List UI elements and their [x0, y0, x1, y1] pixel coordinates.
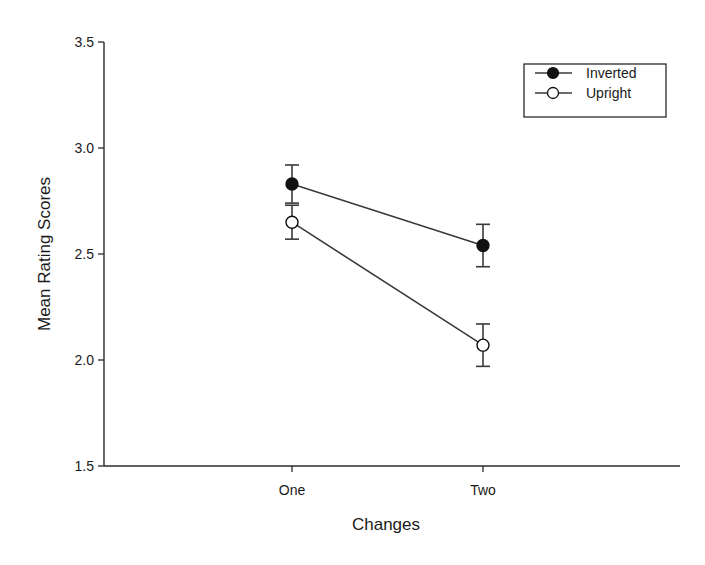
- x-tick-label: Two: [470, 482, 496, 498]
- chart-svg: 1.52.02.53.03.5 OneTwo Mean Rating Score…: [0, 0, 705, 565]
- legend-label-upright: Upright: [586, 85, 631, 101]
- x-axis-ticks: OneTwo: [279, 466, 496, 498]
- open-circle-marker-icon: [548, 88, 559, 99]
- y-axis-ticks: 1.52.02.53.03.5: [75, 34, 104, 474]
- filled-circle-marker-icon: [548, 68, 559, 79]
- y-axis-label: Mean Rating Scores: [35, 177, 54, 331]
- legend-label-inverted: Inverted: [586, 65, 637, 81]
- series-line: [292, 222, 483, 345]
- y-tick-label: 2.0: [75, 352, 95, 368]
- series-inverted: [285, 165, 490, 267]
- filled-circle-marker-icon: [477, 240, 489, 252]
- filled-circle-marker-icon: [286, 178, 298, 190]
- y-tick-label: 2.5: [75, 246, 95, 262]
- series-upright: [285, 205, 490, 366]
- y-tick-label: 3.5: [75, 34, 95, 50]
- data-series: [285, 165, 490, 366]
- line-chart: 1.52.02.53.03.5 OneTwo Mean Rating Score…: [0, 0, 705, 565]
- series-line: [292, 184, 483, 245]
- legend: Inverted Upright: [524, 64, 666, 117]
- open-circle-marker-icon: [477, 339, 489, 351]
- x-axis-label: Changes: [352, 515, 420, 534]
- y-tick-label: 1.5: [75, 458, 95, 474]
- open-circle-marker-icon: [286, 216, 298, 228]
- x-tick-label: One: [279, 482, 306, 498]
- y-tick-label: 3.0: [75, 140, 95, 156]
